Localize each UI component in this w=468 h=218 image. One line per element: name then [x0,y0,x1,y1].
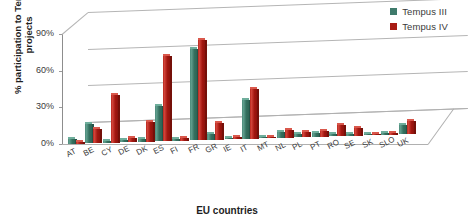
bar-face [354,128,361,135]
legend-label-tempus-iii: Tempus III [402,6,447,17]
bar-face [172,139,179,141]
bar-face [312,133,319,137]
bar-top [111,93,118,95]
bar-face [381,133,388,135]
bar [267,137,274,139]
bar-face [329,134,336,136]
bar-top [312,131,319,133]
bar [233,137,240,139]
legend-swatch-tempus-iii [390,8,397,15]
y-tick-label: 90% [22,28,54,38]
bar-face [76,142,83,144]
bar-top [180,136,187,138]
bar-top [372,132,379,134]
bar [207,134,214,140]
bar-face [207,134,214,140]
bar-face [259,137,266,139]
bar-side [170,56,172,142]
bar-face [320,131,327,137]
bar [68,139,75,144]
bar-top [120,138,127,140]
plot-area: ATBECYDEDKESFIFRGRIEITMTNLPLPTROSESKSLOU… [62,26,450,152]
bar-top [407,119,414,121]
bar-side [118,95,120,143]
bar-face [233,137,240,139]
bar [155,106,162,141]
bar [138,139,145,141]
bar-face [364,134,371,136]
bar-top [225,136,232,138]
bar-top [277,130,284,132]
bar-face [372,134,379,136]
bar [399,125,406,134]
bar-top [207,132,214,134]
bar-face [120,140,127,142]
bar-top [250,87,257,89]
bar-face [277,132,284,138]
bar-face [267,137,274,139]
bar-face [242,100,249,139]
bar [85,124,92,144]
bar-top [354,126,361,128]
bar-top [337,123,344,125]
bar-top [128,136,135,138]
bar-top [93,127,100,129]
bar-top [320,129,327,131]
bar-face [85,124,92,144]
bar-top [389,131,396,133]
bar [354,128,361,135]
bar [146,122,153,142]
bar-face [103,141,110,143]
bar-face [337,125,344,136]
bar [329,134,336,136]
bar-face [155,106,162,141]
y-axis-title: % participation to Tempus projects [12,0,34,105]
bar-face [138,139,145,141]
bar-top [190,47,197,49]
bar [180,138,187,140]
bar-face [163,56,170,142]
bar [302,132,309,137]
bar-top [233,135,240,137]
y-tick-label: 0% [22,138,54,148]
bar-top [302,130,309,132]
bar-side [257,89,259,139]
x-axis-title: EU countries [0,205,454,216]
bar [277,132,284,138]
legend-item-tempus-iii: Tempus III [390,4,448,19]
bar [120,140,127,142]
bar-top [172,137,179,139]
bar-face [225,138,232,140]
bar-face [399,125,406,134]
bar [381,133,388,135]
bar-face [111,95,118,143]
y-tick-label: 30% [22,101,54,111]
bars-group [62,26,450,152]
bar [407,121,414,134]
bar-top [346,132,353,134]
bar-side [414,121,416,134]
bar-face [198,40,205,140]
bar [172,139,179,141]
bar-face [407,121,414,134]
bar [93,129,100,144]
bar-top [399,123,406,125]
bar-face [146,122,153,142]
bar-top [259,135,266,137]
bar-top [364,132,371,134]
bar [198,40,205,140]
bar [103,141,110,143]
bar-top [68,137,75,139]
bar-top [285,128,292,130]
bar [294,134,301,138]
bar [312,133,319,137]
bar-face [294,134,301,138]
bar [190,49,197,141]
bar-top [267,135,274,137]
bar [364,134,371,136]
bar [372,134,379,136]
bar [285,130,292,137]
bar-top [85,122,92,124]
bar-top [381,131,388,133]
